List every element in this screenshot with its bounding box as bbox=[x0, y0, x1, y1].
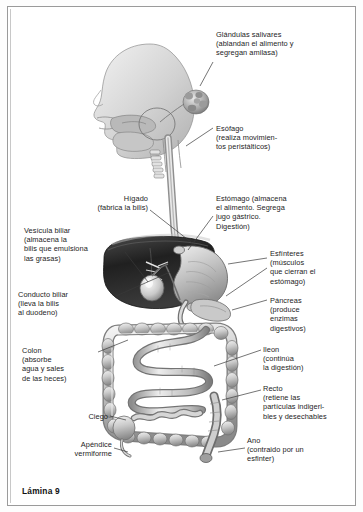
label-ano: Ano (contraido por un esfinter) bbox=[247, 436, 357, 464]
label-ileon: Ileon (continúa la digestión) bbox=[263, 345, 355, 373]
label-glandulas-salivares: Glándulas salivares (ablandan el aliment… bbox=[216, 30, 356, 58]
leader-esfinteres-2 bbox=[226, 268, 267, 296]
leader-esfinteres-1 bbox=[228, 258, 267, 264]
esophagus-group bbox=[168, 138, 177, 248]
leader-pancreas bbox=[232, 300, 267, 310]
label-esofago: Esófago (realiza movimien- tos peristált… bbox=[216, 124, 336, 152]
pancreas-body bbox=[191, 299, 231, 321]
head-profile-group bbox=[94, 44, 209, 178]
leader-ano bbox=[218, 448, 245, 452]
anatomy-plate: Glándulas salivares (ablandan el aliment… bbox=[0, 0, 363, 512]
label-higado: Hígado (fabrica la bilis) bbox=[66, 194, 148, 212]
anus bbox=[200, 454, 212, 463]
rectum-anus-group bbox=[200, 396, 220, 463]
label-conducto-biliar: Conducto biliar (lleva la bilis al duode… bbox=[18, 290, 114, 318]
cecum-appendix-group bbox=[113, 416, 135, 456]
plate-caption: Lámina 9 bbox=[22, 486, 60, 496]
leader-salivares bbox=[200, 62, 213, 86]
small-intestine-group bbox=[132, 330, 209, 418]
stomach-body bbox=[174, 246, 228, 308]
label-colon: Colon (absorbe agua y sales de las heces… bbox=[22, 346, 96, 383]
gallbladder-body bbox=[140, 275, 164, 301]
label-apendice-vermiforme: Apéndice vermiforme bbox=[46, 440, 112, 458]
label-estomago: Estómago (almacena el alimento. Segrega … bbox=[216, 194, 348, 231]
label-ciego: Ciego bbox=[58, 412, 108, 421]
label-vesicula-biliar: Vesícula biliar (almacena la bilis que e… bbox=[24, 226, 124, 263]
label-pancreas: Páncreas (produce enzimas digestivos) bbox=[270, 296, 356, 333]
neck-line-right bbox=[178, 140, 181, 168]
leader-esofago bbox=[186, 128, 213, 146]
cardiac-sphincter bbox=[174, 246, 185, 254]
label-esfinteres: Esfínteres (músculos que cierran el estó… bbox=[270, 249, 358, 286]
label-recto: Recto (retiene las partículas indigeri- … bbox=[263, 384, 359, 421]
